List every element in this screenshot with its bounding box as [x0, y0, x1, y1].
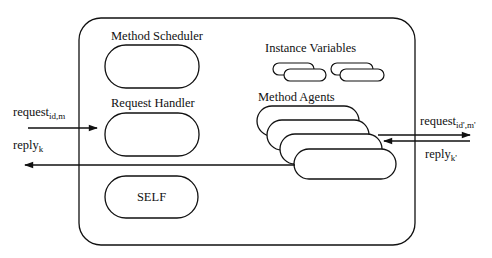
method-scheduler-label: Method Scheduler: [111, 30, 203, 43]
method-agents-stack: [257, 106, 396, 179]
incoming-reply-base: reply: [425, 147, 451, 161]
outgoing-request-subscript: id',m': [456, 120, 476, 130]
method-scheduler-oval: [105, 45, 199, 88]
instance-variables-group: [273, 63, 384, 81]
incoming-reply-label: replyk': [425, 148, 457, 161]
outgoing-reply-label: replyk: [13, 139, 43, 152]
actor-diagram-canvas: [0, 0, 492, 258]
outgoing-request-base: request: [420, 114, 456, 128]
outgoing-reply-base: reply: [13, 138, 39, 152]
outgoing-request-label: requestid',m': [420, 115, 476, 128]
incoming-request-label: requestid,m: [13, 106, 65, 119]
instance-variables-label: Instance Variables: [265, 42, 356, 55]
incoming-request-subscript: id,m: [49, 111, 65, 121]
request-handler-oval: [105, 113, 199, 156]
incoming-reply-subscript: k': [451, 153, 457, 163]
outgoing-reply-subscript: k: [39, 144, 44, 154]
request-handler-label: Request Handler: [111, 97, 195, 110]
self-label: SELF: [105, 190, 198, 205]
method-agents-label: Method Agents: [258, 91, 335, 104]
incoming-request-base: request: [13, 105, 49, 119]
